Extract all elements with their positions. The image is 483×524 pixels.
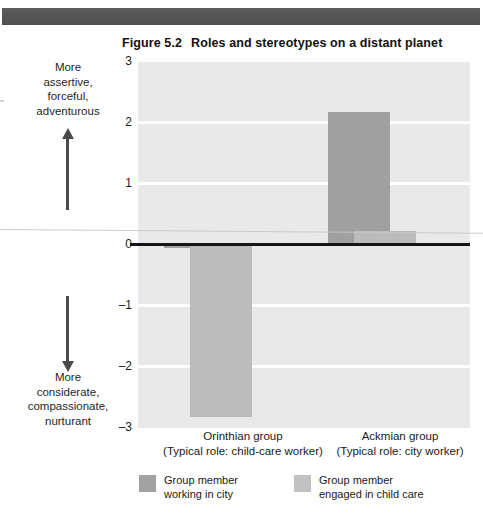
gridline-1 — [138, 182, 470, 185]
legend-swatch-working-in-city — [139, 475, 156, 492]
bar-ackmian-working-in-city — [328, 112, 390, 243]
bar-orinthian-child-care — [190, 243, 252, 417]
legend-swatch-child-care — [294, 475, 311, 492]
up-arrow-icon — [62, 128, 74, 210]
gridline-neg-1 — [138, 304, 470, 307]
down-arrow-icon — [62, 296, 74, 372]
page-header-band — [2, 8, 480, 25]
y-tick-3: 3 — [106, 54, 132, 68]
legend: Group member working in city Group membe… — [139, 474, 483, 508]
x-category-ackmian-role: (Typical role: city worker) — [320, 444, 480, 459]
x-category-orinthian-role: (Typical role: child-care worker) — [150, 444, 336, 459]
y-tick-1: 1 — [106, 176, 132, 190]
figure-number: Figure 5.2 — [122, 36, 182, 50]
y-tick-neg-1: –1 — [106, 298, 132, 312]
x-category-ackmian-name: Ackmian group — [320, 429, 480, 444]
gridline-neg-2 — [138, 365, 470, 368]
x-category-orinthian: Orinthian group (Typical role: child-car… — [150, 429, 336, 459]
legend-label-child-care: Group member engaged in child care — [319, 474, 424, 501]
x-category-ackmian: Ackmian group (Typical role: city worker… — [320, 429, 480, 459]
y-axis: 3 2 1 0 –1 –2 –3 — [104, 62, 132, 428]
legend-label-working-in-city: Group member working in city — [164, 474, 238, 501]
plot-area — [138, 62, 470, 428]
y-tick-neg-3: –3 — [106, 420, 132, 434]
legend-item-working-in-city: Group member working in city — [139, 474, 238, 501]
zero-line — [130, 243, 470, 246]
scan-artifact-fleck — [0, 100, 4, 102]
y-tick-neg-2: –2 — [106, 359, 132, 373]
y-tick-2: 2 — [106, 115, 132, 129]
figure-title: Figure 5.2Roles and stereotypes on a dis… — [122, 36, 442, 50]
gridline-2 — [138, 121, 470, 124]
figure-page: Figure 5.2Roles and stereotypes on a dis… — [0, 0, 483, 524]
x-category-orinthian-name: Orinthian group — [150, 429, 336, 444]
legend-item-child-care: Group member engaged in child care — [294, 474, 424, 501]
y-tick-0: 0 — [106, 237, 132, 251]
figure-title-text: Roles and stereotypes on a distant plane… — [191, 36, 442, 50]
